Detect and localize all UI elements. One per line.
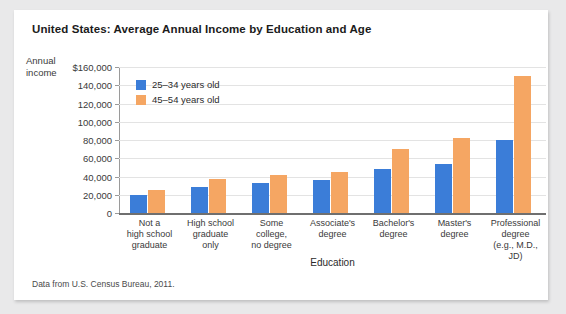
y-tick-label: $160,000 <box>72 62 112 73</box>
x-category-label-line: Associate's <box>303 218 363 229</box>
bar-group <box>241 67 302 213</box>
bar <box>331 172 348 213</box>
x-category-label-line: degree <box>486 229 546 240</box>
x-category-label: Not ahigh schoolgraduate <box>120 218 180 251</box>
legend-label: 25–34 years old <box>152 79 220 90</box>
legend-swatch <box>136 95 146 105</box>
y-tick-label: 120,000 <box>78 98 112 109</box>
bar <box>191 187 208 213</box>
y-tick-label: 20,000 <box>83 189 112 200</box>
chart-title: United States: Average Annual Income by … <box>32 23 371 35</box>
x-category-label-line: only <box>181 240 241 251</box>
bar <box>435 164 452 213</box>
x-category-label: Associate'sdegree <box>303 218 363 240</box>
bar <box>496 140 513 213</box>
legend-item[interactable]: 25–34 years old <box>136 78 220 91</box>
legend-item[interactable]: 45–54 years old <box>136 93 220 106</box>
x-category-label: Bachelor'sdegree <box>364 218 424 240</box>
bar <box>392 149 409 213</box>
y-tick-label: 40,000 <box>83 171 112 182</box>
bar <box>270 175 287 213</box>
bar <box>374 169 391 213</box>
chart-card: United States: Average Annual Income by … <box>14 10 548 300</box>
bar <box>453 138 470 213</box>
y-tick-label: 100,000 <box>78 116 112 127</box>
y-tick-label: 60,000 <box>83 153 112 164</box>
bar-group <box>485 67 546 213</box>
bar <box>514 76 531 213</box>
x-category-label-line: Master's <box>425 218 485 229</box>
x-category-label-line: graduate <box>181 229 241 240</box>
bar-group <box>424 67 485 213</box>
chart-legend: 25–34 years old45–54 years old <box>136 78 220 108</box>
bar <box>313 180 330 213</box>
legend-swatch <box>136 80 146 90</box>
x-category-label-line: no degree <box>242 240 302 251</box>
x-category-label: High schoolgraduateonly <box>181 218 241 251</box>
bar <box>130 195 147 213</box>
x-category-label-line: degree <box>425 229 485 240</box>
x-category-label: Somecollege,no degree <box>242 218 302 251</box>
bar <box>148 190 165 213</box>
y-axis-title: Annual income <box>26 55 76 78</box>
x-category-label-line: Some <box>242 218 302 229</box>
x-category-label-line: High school <box>181 218 241 229</box>
bar <box>209 179 226 213</box>
bar <box>252 183 269 213</box>
x-category-label-line: degree <box>364 229 424 240</box>
x-category-label-line: high school <box>120 229 180 240</box>
bar-group <box>363 67 424 213</box>
legend-label: 45–54 years old <box>152 94 220 105</box>
y-tick-label: 140,000 <box>78 80 112 91</box>
x-axis-title: Education <box>119 257 546 268</box>
bar-group <box>302 67 363 213</box>
x-category-label-line: Professional <box>486 218 546 229</box>
x-category-label-line: degree <box>303 229 363 240</box>
x-category-label: Professionaldegree(e.g., M.D., JD) <box>486 218 546 262</box>
x-category-label-line: college, <box>242 229 302 240</box>
x-category-label-line: Bachelor's <box>364 218 424 229</box>
y-tick-label: 80,000 <box>83 135 112 146</box>
x-category-label-line: Not a <box>120 218 180 229</box>
source-note: Data from U.S. Census Bureau, 2011. <box>32 279 175 289</box>
y-tick-mark <box>115 213 119 214</box>
x-category-label: Master'sdegree <box>425 218 485 240</box>
x-axis-line <box>119 213 546 215</box>
x-category-label-line: graduate <box>120 240 180 251</box>
y-tick-label: 0 <box>107 208 112 219</box>
